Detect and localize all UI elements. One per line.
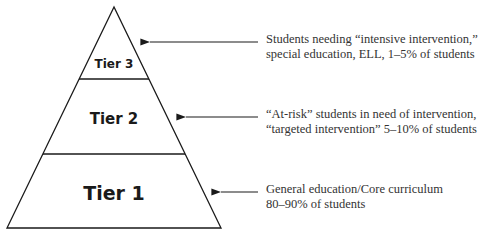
- tier-1-desc-line-2: 80–90% of students: [266, 197, 443, 212]
- tier-3-desc-line-1: Students needing “intensive intervention…: [266, 32, 478, 47]
- tier-2-desc-line-2: “targeted intervention” 5–10% of student…: [266, 122, 477, 137]
- tier-3-desc-line-2: special education, ELL, 1–5% of students: [266, 47, 478, 62]
- tier-2-desc-line-1: “At-risk” students in need of interventi…: [266, 107, 477, 122]
- tier-1-desc-line-1: General education/Core curriculum: [266, 182, 443, 197]
- tier-2-description: “At-risk” students in need of interventi…: [266, 107, 477, 137]
- tier-2-label: Tier 2: [90, 110, 139, 128]
- tier-3-label: Tier 3: [95, 57, 134, 71]
- tier-1-label: Tier 1: [83, 182, 145, 204]
- tier-3-description: Students needing “intensive intervention…: [266, 32, 478, 62]
- tier-1-description: General education/Core curriculum 80–90%…: [266, 182, 443, 212]
